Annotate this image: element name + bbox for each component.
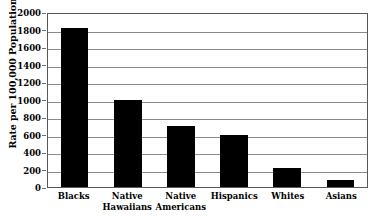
y-tick-label: 800 [8, 114, 41, 122]
x-tick-label: Hispanics [208, 191, 262, 213]
y-tick-label: 1400 [8, 62, 41, 70]
y-tick-mark [42, 13, 46, 14]
x-tick-label: Blacks [47, 191, 101, 213]
x-tick-label: Asians [315, 191, 369, 213]
bar [114, 100, 142, 188]
bar-slot [208, 14, 261, 187]
y-tick-mark [42, 100, 46, 101]
bar [220, 135, 248, 188]
bar-slot [154, 14, 207, 187]
bar [167, 126, 195, 187]
bar [327, 180, 355, 187]
y-tick-mark [42, 153, 46, 154]
y-tick-mark [42, 83, 46, 84]
y-tick-mark [42, 135, 46, 136]
y-tick-mark [42, 170, 46, 171]
bar-series [48, 14, 367, 187]
bar-slot [101, 14, 154, 187]
y-tick-label: 400 [8, 149, 41, 157]
x-tick-label: Whites [261, 191, 315, 213]
bar-slot [314, 14, 367, 187]
x-tick-label: Native Hawaiians [101, 191, 155, 213]
y-tick-label: 2000 [8, 9, 41, 17]
y-axis-tick-labels: 2000180016001400120010008006004002000 [8, 13, 41, 188]
y-tick-mark [42, 188, 46, 189]
y-tick-mark [42, 30, 46, 31]
bar [273, 168, 301, 187]
y-tick-label: 1600 [8, 44, 41, 52]
y-tick-mark [42, 65, 46, 66]
y-tick-mark [42, 118, 46, 119]
y-tick-label: 600 [8, 132, 41, 140]
bar-chart-figure: Rate per 100,000 Population 200018001600… [0, 0, 377, 218]
x-tick-label: Native Americans [154, 191, 208, 213]
y-tick-label: 1000 [8, 97, 41, 105]
plot-area [47, 13, 368, 188]
y-tick-label: 0 [8, 184, 41, 192]
y-tick-label: 1200 [8, 79, 41, 87]
y-tick-label: 200 [8, 167, 41, 175]
bar-slot [48, 14, 101, 187]
chart-title-cropped [95, 0, 310, 2]
x-axis-tick-labels: BlacksNative HawaiiansNative AmericansHi… [47, 191, 368, 213]
y-tick-mark [42, 48, 46, 49]
y-tick-label: 1800 [8, 27, 41, 35]
bar-slot [261, 14, 314, 187]
bar [61, 28, 89, 187]
